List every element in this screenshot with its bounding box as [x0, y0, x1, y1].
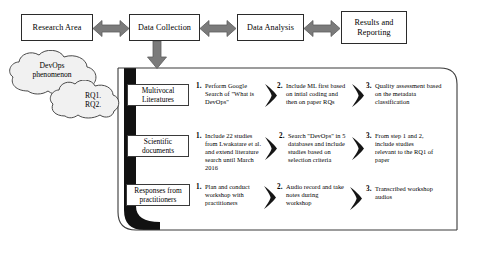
double-headed-arrow-icon	[93, 20, 129, 37]
step-item: 3. Quality assessment based on the metad…	[366, 82, 444, 106]
step-text: Perform Google Search of "What is DevOps…	[205, 82, 264, 106]
step-text: Include ML first based on intial coding …	[286, 82, 349, 106]
process-box-results-and-reporting[interactable]: Results and Reporting	[341, 11, 407, 44]
step-text: Include 22 studies from Lwakatare et al.…	[205, 132, 266, 172]
chevron-right-icon	[263, 83, 278, 108]
chevron-right-icon	[348, 186, 363, 211]
step-number: 1.	[196, 82, 202, 90]
chevron-right-icon	[263, 136, 278, 161]
step-number: 2.	[277, 183, 283, 191]
process-box-data-collection[interactable]: Data Collection	[129, 14, 200, 41]
row-label-responses-from-practitioners[interactable]: Responses from practitioners	[126, 184, 190, 206]
step-number: 1.	[196, 132, 202, 140]
chevron-right-icon	[350, 136, 365, 161]
step-item: 2. Audio record and take notes during wo…	[277, 183, 345, 207]
step-text: Audio record and take notes during works…	[286, 183, 345, 207]
step-item: 1. Perform Google Search of "What is Dev…	[196, 82, 264, 106]
row-label-multivocal-literatures[interactable]: Multivocal Literatures	[127, 84, 189, 106]
step-number: 3.	[366, 132, 372, 140]
diagram-canvas: Research Area Data Collection Data Analy…	[0, 0, 481, 256]
row-label-text: Responses from practitioners	[127, 186, 189, 204]
step-item: 1. Include 22 studies from Lwakatare et …	[196, 132, 266, 172]
step-item: 2. Search "DevOps" in 5 databases and in…	[279, 132, 351, 164]
row-label-text: Multivocal Literatures	[128, 86, 188, 104]
step-text: Plan and conduct workshop with practitio…	[205, 183, 262, 207]
step-item: 1. Plan and conduct workshop with practi…	[196, 183, 262, 207]
step-number: 3.	[366, 82, 372, 90]
step-text: Transcribed workshop audios	[375, 185, 438, 201]
chevron-right-icon	[350, 83, 365, 108]
step-text: Search "DevOps" in 5 databases and inclu…	[288, 132, 351, 164]
process-box-label: Results and Reporting	[342, 18, 406, 38]
step-item: 3. Transcribed workshop audios	[366, 185, 438, 201]
down-arrow-icon	[147, 41, 167, 69]
double-headed-arrow-icon	[304, 20, 340, 37]
step-text: From step 1 and 2, include studies relev…	[375, 132, 436, 164]
step-item: 3. From step 1 and 2, include studies re…	[366, 132, 436, 164]
row-label-text: Scientific documents	[128, 137, 188, 155]
process-box-research-area[interactable]: Research Area	[21, 14, 93, 41]
step-item: 2. Include ML first based on intial codi…	[277, 82, 349, 106]
step-number: 2.	[279, 132, 285, 140]
process-box-label: Data Analysis	[247, 23, 294, 33]
process-box-data-analysis[interactable]: Data Analysis	[237, 14, 304, 41]
step-number: 1.	[196, 183, 202, 191]
row-label-scientific-documents[interactable]: Scientific documents	[127, 135, 189, 157]
chevron-right-icon	[262, 185, 277, 210]
cloud-research-questions: RQ1. RQ2.	[47, 80, 121, 120]
process-box-label: Data Collection	[138, 23, 191, 33]
step-number: 3.	[366, 185, 372, 193]
process-box-label: Research Area	[33, 23, 82, 33]
double-headed-arrow-icon	[200, 20, 236, 37]
cloud-shape-icon	[47, 80, 121, 120]
step-text: Quality assessment based on the metadata…	[375, 82, 444, 106]
